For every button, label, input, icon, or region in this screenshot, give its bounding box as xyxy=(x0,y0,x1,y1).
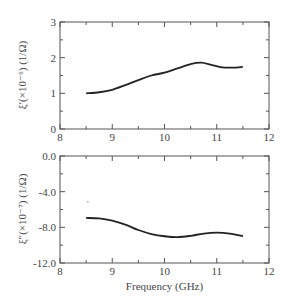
x-tick-label: 12 xyxy=(264,265,275,277)
x-tick-label: 8 xyxy=(57,265,63,277)
data-curve-xi_double_prime xyxy=(86,218,243,237)
x-tick-label: 10 xyxy=(159,265,171,277)
upper-plot: 891011120123ξ′(×10⁻⁶) (1/Ω) xyxy=(16,16,275,143)
stray-dot xyxy=(87,201,89,203)
y-tick-label: 2 xyxy=(51,52,57,64)
y-tick-label: -8.0 xyxy=(39,221,57,233)
data-curve-xi_prime xyxy=(86,63,243,94)
y-tick-label: 1 xyxy=(51,87,57,99)
y-tick-label: 0 xyxy=(51,123,57,135)
x-tick-label: 10 xyxy=(159,131,171,143)
lower-plot: 891011120.0-4.0-8.0-12.0ξ″(×10⁻⁷) (1/Ω)F… xyxy=(16,150,275,293)
y-tick-label: -12.0 xyxy=(33,257,56,269)
x-tick-label: 11 xyxy=(211,265,222,277)
x-tick-label: 8 xyxy=(57,131,63,143)
x-tick-label: 12 xyxy=(264,131,275,143)
chart-figure: 891011120123ξ′(×10⁻⁶) (1/Ω) 891011120.0-… xyxy=(0,0,288,301)
y-tick-label: 3 xyxy=(51,16,57,28)
plot-frame xyxy=(60,22,269,129)
x-tick-label: 11 xyxy=(211,131,222,143)
x-tick-label: 9 xyxy=(110,131,116,143)
y-axis-label: ξ″(×10⁻⁷) (1/Ω) xyxy=(16,173,29,244)
y-tick-label: 0.0 xyxy=(42,150,56,162)
y-axis-label: ξ′(×10⁻⁶) (1/Ω) xyxy=(16,40,29,109)
x-axis-label: Frequency (GHz) xyxy=(126,280,204,293)
plot-frame xyxy=(60,156,269,263)
x-tick-label: 9 xyxy=(110,265,116,277)
y-tick-label: -4.0 xyxy=(39,186,57,198)
